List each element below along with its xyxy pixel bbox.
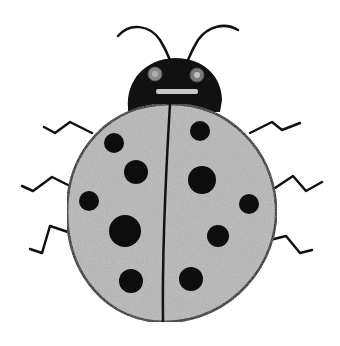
left-antenna xyxy=(118,27,170,60)
leg-left-3 xyxy=(30,226,68,253)
shell xyxy=(67,104,276,322)
spot-right-3 xyxy=(239,194,259,214)
leg-left-2 xyxy=(22,177,70,191)
ladybug-drawing xyxy=(0,0,340,346)
leg-right-1 xyxy=(250,122,300,133)
ladybug-illustration xyxy=(0,0,340,346)
right-antenna xyxy=(188,26,238,60)
spot-left-4 xyxy=(109,215,141,247)
spot-right-1 xyxy=(190,121,210,141)
spot-right-2 xyxy=(188,166,216,194)
spot-left-5 xyxy=(119,269,143,293)
antennae xyxy=(118,26,238,60)
leg-right-2 xyxy=(275,176,322,191)
spot-right-5 xyxy=(179,267,203,291)
spot-left-1 xyxy=(104,133,124,153)
spot-left-2 xyxy=(124,160,148,184)
spot-left-3 xyxy=(79,191,99,211)
mouth xyxy=(156,89,198,94)
leg-left-1 xyxy=(44,122,92,133)
spot-right-4 xyxy=(207,225,229,247)
leg-right-3 xyxy=(270,236,312,253)
